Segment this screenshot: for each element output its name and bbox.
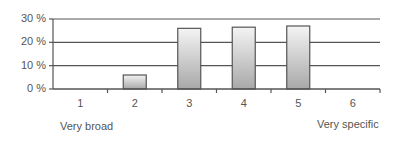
x-tick-label: 4 [234,97,254,109]
gridlines [53,19,380,66]
x-tick-label: 5 [288,97,308,109]
x-tick-label: 1 [70,97,90,109]
annotation-very-specific: Very specific [317,118,379,130]
axes [49,19,380,93]
annotation-very-broad: Very broad [60,120,113,132]
bar-3 [178,28,201,89]
x-tick-label: 6 [343,97,363,109]
x-tick-label: 3 [179,97,199,109]
y-tick-label: 20 % [2,35,46,47]
y-tick-label: 0 % [2,82,46,94]
x-tick-label: 2 [125,97,145,109]
bar-2 [123,75,146,89]
bars [123,26,310,89]
y-tick-label: 30 % [2,12,46,24]
bar-4 [232,27,255,89]
bar-5 [287,26,310,89]
y-tick-label: 10 % [2,59,46,71]
bar-chart: 0 %10 %20 %30 % 123456 Very broad Very s… [0,0,396,141]
